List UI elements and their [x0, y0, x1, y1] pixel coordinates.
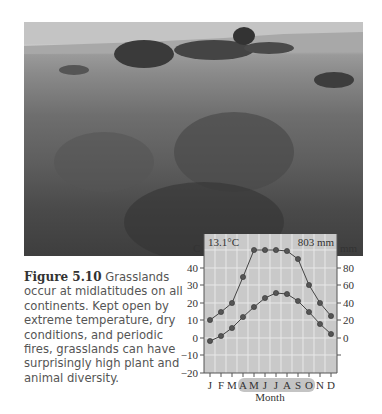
- svg-text:10: 10: [187, 314, 199, 326]
- x-axis-title: Month: [255, 391, 285, 403]
- climate-chart: 4030 2010 0−10 −20 8060 4020 0 C mm 13.1…: [0, 0, 382, 414]
- svg-text:A: A: [239, 379, 247, 391]
- precip-unit-label: mm: [340, 242, 358, 254]
- svg-text:N: N: [316, 379, 324, 391]
- svg-text:80: 80: [343, 262, 355, 274]
- annual-precip-annotation: 803 mm: [298, 236, 335, 248]
- svg-text:−10: −10: [181, 349, 199, 361]
- svg-text:20: 20: [343, 314, 355, 326]
- svg-text:J: J: [263, 379, 268, 391]
- svg-text:0: 0: [343, 332, 349, 344]
- svg-text:J: J: [208, 379, 213, 391]
- temp-unit-label: C: [193, 242, 200, 254]
- svg-text:D: D: [327, 379, 335, 391]
- svg-text:J: J: [274, 379, 279, 391]
- svg-text:−20: −20: [181, 367, 199, 379]
- svg-text:M: M: [227, 379, 237, 391]
- svg-text:S: S: [295, 379, 301, 391]
- left-axis-labels: 4030 2010 0−10 −20: [181, 262, 199, 379]
- svg-text:0: 0: [193, 332, 199, 344]
- svg-text:30: 30: [187, 279, 199, 291]
- svg-text:O: O: [305, 379, 313, 391]
- svg-text:40: 40: [187, 262, 199, 274]
- mean-temp-annotation: 13.1°C: [208, 236, 239, 248]
- svg-text:A: A: [283, 379, 291, 391]
- svg-text:M: M: [249, 379, 259, 391]
- right-axis-labels: 8060 4020 0: [343, 262, 355, 344]
- svg-text:60: 60: [343, 279, 355, 291]
- svg-text:F: F: [218, 379, 224, 391]
- svg-text:20: 20: [187, 297, 199, 309]
- svg-text:40: 40: [343, 297, 355, 309]
